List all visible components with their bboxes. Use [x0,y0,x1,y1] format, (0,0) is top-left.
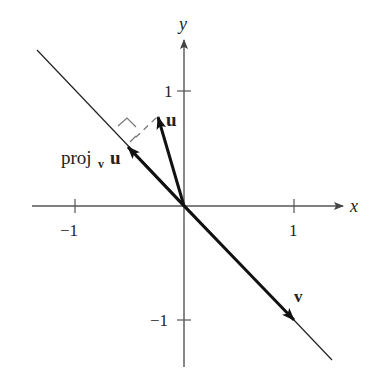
y-tick-label-1: 1 [164,82,173,101]
proj-label-vector: u [110,147,121,168]
vector-v-label: v [294,287,303,306]
x-tick-label-1: 1 [289,221,298,240]
vector-v [184,206,294,320]
perpendicular-dashed [135,118,156,138]
x-tick-label-neg1: −1 [60,221,78,240]
projection-diagram: x y −1 1 1 −1 u v proj v u [0,0,379,380]
proj-label: proj [61,147,92,168]
x-axis-label: x [349,196,358,216]
proj-label-subscript: v [98,157,104,171]
y-tick-label-neg1: −1 [150,311,168,330]
vector-u-label: u [166,109,177,130]
right-angle-marker-tick [130,136,136,142]
right-angle-marker [118,118,136,127]
y-axis-label: y [177,14,187,34]
